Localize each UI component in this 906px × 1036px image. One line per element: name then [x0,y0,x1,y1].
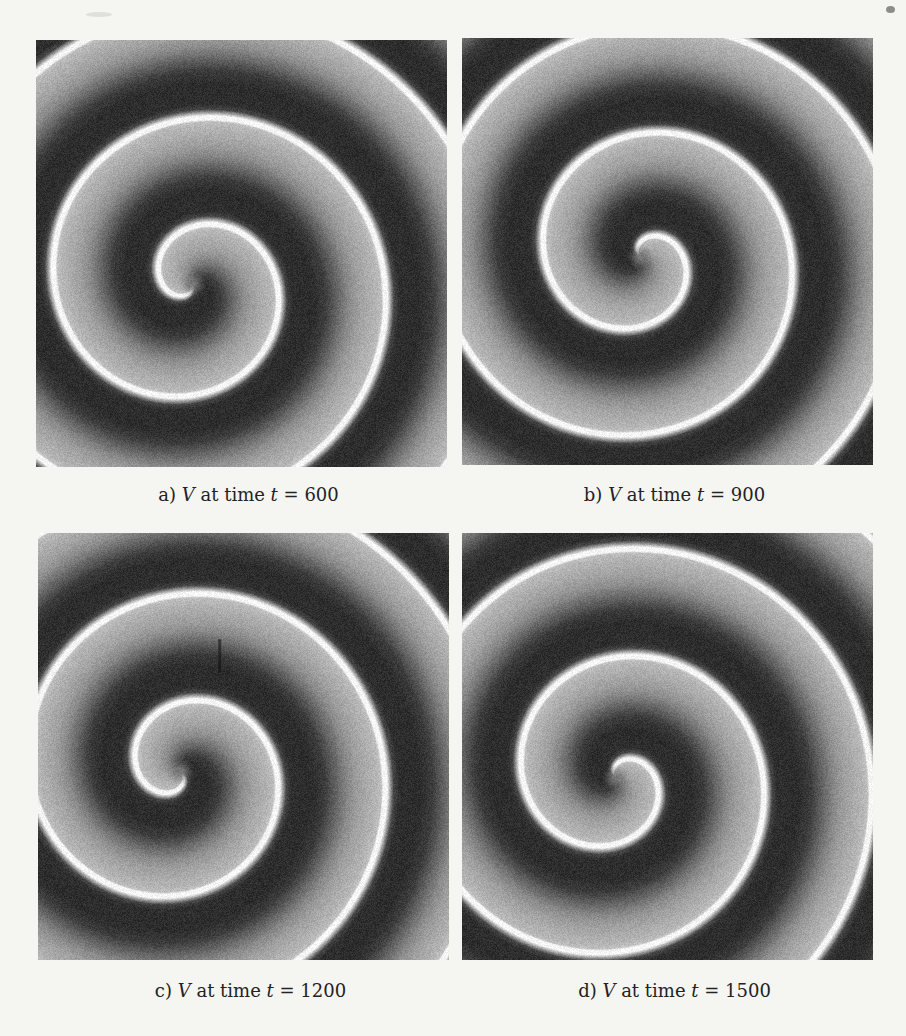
caption-middle: at time [627,484,691,505]
caption-value: = 600 [284,484,339,505]
caption-variable: V [178,980,191,1001]
caption-middle: at time [196,980,260,1001]
caption-middle: at time [621,980,685,1001]
caption-time-symbol: t [271,484,278,505]
panel-c [38,533,449,960]
caption-time-symbol: t [267,980,274,1001]
spiral-image-b [462,38,873,465]
caption-index: b) [584,484,603,505]
caption-index: d) [578,980,597,1001]
panel-caption-d: d) V at time t = 1500 [462,980,873,1001]
caption-middle: at time [200,484,264,505]
panel-caption-b: b) V at time t = 900 [462,484,873,505]
panel-caption-a: a) V at time t = 600 [36,484,447,505]
panel-b [462,38,873,465]
caption-variable: V [182,484,195,505]
caption-index: c) [155,980,172,1001]
caption-value: = 900 [710,484,765,505]
caption-variable: V [608,484,621,505]
caption-time-symbol: t [697,484,704,505]
spiral-image-a [36,40,447,467]
caption-variable: V [602,980,615,1001]
caption-time-symbol: t [691,980,698,1001]
scan-smudge [86,12,112,17]
caption-index: a) [158,484,176,505]
panel-a [36,40,447,467]
spiral-image-c [38,533,449,960]
panel-d [462,533,873,960]
panel-caption-c: c) V at time t = 1200 [38,980,449,1001]
caption-value: = 1500 [704,980,771,1001]
scan-smudge [886,6,895,13]
caption-value: = 1200 [280,980,347,1001]
spiral-image-d [462,533,873,960]
